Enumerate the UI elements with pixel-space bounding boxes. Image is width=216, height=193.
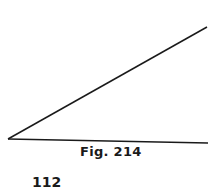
angle-figure [0, 0, 216, 193]
page-number: 112 [32, 174, 61, 190]
figure-caption: Fig. 214 [80, 144, 142, 159]
lower-ray [8, 139, 208, 143]
upper-ray [8, 27, 207, 139]
